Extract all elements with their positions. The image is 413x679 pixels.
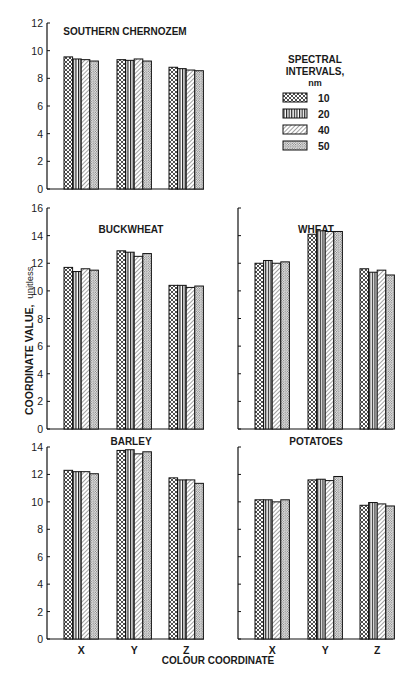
bar-z-10nm xyxy=(169,478,178,639)
bar-x-50nm xyxy=(90,474,99,639)
bar-y-10nm xyxy=(117,251,126,429)
y-tick-label: 8 xyxy=(37,523,43,535)
bar-x-20nm xyxy=(73,59,82,189)
bar-x-10nm xyxy=(255,500,264,639)
x-axis-label: COLOUR COORDINATE xyxy=(162,655,275,666)
y-tick-label: 6 xyxy=(37,340,43,352)
bar-z-50nm xyxy=(195,483,204,639)
bar-x-50nm xyxy=(281,262,290,429)
figure: 024681012SOUTHERN CHERNOZEM0246810121416… xyxy=(0,0,413,679)
y-tick-label: 10 xyxy=(31,496,43,508)
bar-x-10nm xyxy=(64,267,73,429)
bar-z-50nm xyxy=(386,506,395,639)
bar-x-40nm xyxy=(272,502,281,639)
legend-entry-40: 40 xyxy=(283,124,330,136)
bar-y-20nm xyxy=(126,450,135,639)
panel-title: POTATOES xyxy=(289,436,343,447)
bar-z-10nm xyxy=(169,67,178,189)
bar-y-40nm xyxy=(134,256,143,429)
category-label: X xyxy=(78,644,85,656)
panel-title: SOUTHERN CHERNOZEM xyxy=(63,26,186,37)
panel-wheat: WHEAT xyxy=(238,208,394,429)
y-tick-label: 14 xyxy=(31,441,43,453)
y-tick-label: 0 xyxy=(37,183,43,195)
legend-label: 40 xyxy=(318,124,330,136)
diagonal-lines-swatch-icon xyxy=(283,125,307,134)
bar-z-10nm xyxy=(169,285,178,429)
panel-barley: 02468101214BARLEYXYZ xyxy=(31,436,204,656)
bar-z-40nm xyxy=(377,504,386,639)
category-label: Z xyxy=(374,644,381,656)
bar-y-10nm xyxy=(117,450,126,639)
y-tick-label: 8 xyxy=(37,72,43,84)
bar-x-40nm xyxy=(81,269,90,429)
y-axis-unit: unitless xyxy=(24,266,35,298)
bar-x-20nm xyxy=(73,272,82,429)
y-tick-label: 6 xyxy=(37,100,43,112)
bar-z-10nm xyxy=(360,269,369,429)
bar-y-50nm xyxy=(143,254,152,429)
panel-title: BARLEY xyxy=(110,436,151,447)
vertical-lines-swatch-icon xyxy=(283,109,307,118)
crosshatch-swatch-icon xyxy=(283,93,307,102)
bar-y-40nm xyxy=(325,481,334,639)
bar-z-20nm xyxy=(369,503,378,639)
bar-z-40nm xyxy=(186,287,195,429)
bar-x-20nm xyxy=(264,260,273,429)
panel-title: BUCKWHEAT xyxy=(99,224,164,235)
bar-x-20nm xyxy=(73,472,82,639)
y-tick-label: 0 xyxy=(37,633,43,645)
y-tick-label: 4 xyxy=(37,128,43,140)
bar-y-10nm xyxy=(308,234,317,429)
panel-southern-chernozem: 024681012SOUTHERN CHERNOZEM xyxy=(31,17,204,195)
bar-x-50nm xyxy=(90,61,99,189)
bar-z-40nm xyxy=(377,270,386,429)
y-tick-label: 8 xyxy=(37,313,43,325)
legend-label: 10 xyxy=(318,92,330,104)
bar-y-40nm xyxy=(134,59,143,189)
y-tick-label: 12 xyxy=(31,17,43,29)
legend-label: 20 xyxy=(318,108,330,120)
y-tick-label: 10 xyxy=(31,45,43,57)
bar-x-40nm xyxy=(81,472,90,639)
legend-entry-50: 50 xyxy=(283,140,330,152)
panel-buckwheat: 0246810121416BUCKWHEAT xyxy=(31,202,204,435)
bar-x-40nm xyxy=(272,263,281,429)
y-tick-label: 2 xyxy=(37,155,43,167)
bar-z-40nm xyxy=(186,70,195,189)
bar-y-40nm xyxy=(325,231,334,429)
y-tick-label: 2 xyxy=(37,395,43,407)
bar-x-50nm xyxy=(281,500,290,639)
category-label: Y xyxy=(131,644,138,656)
legend: SPECTRAL INTERVALS, nm 10204050 xyxy=(283,54,344,152)
bar-x-50nm xyxy=(90,270,99,429)
bar-y-10nm xyxy=(308,480,317,639)
y-tick-label: 16 xyxy=(31,202,43,214)
bar-y-20nm xyxy=(126,60,135,189)
legend-title-line-1: SPECTRAL xyxy=(288,54,342,65)
bar-z-20nm xyxy=(369,272,378,429)
panel-potatoes: POTATOESXYZ xyxy=(238,436,394,656)
bar-x-10nm xyxy=(255,263,264,429)
bar-y-40nm xyxy=(134,454,143,639)
legend-title-line-2: INTERVALS, xyxy=(286,66,345,77)
bar-x-40nm xyxy=(81,60,90,189)
legend-entry-20: 20 xyxy=(283,108,330,120)
y-tick-label: 0 xyxy=(37,423,43,435)
bar-z-50nm xyxy=(195,286,204,429)
bar-z-20nm xyxy=(178,480,187,639)
bar-y-20nm xyxy=(317,479,326,639)
y-tick-label: 4 xyxy=(37,578,43,590)
legend-title-line-3: nm xyxy=(308,78,322,88)
y-tick-label: 14 xyxy=(31,230,43,242)
bar-x-10nm xyxy=(64,470,73,639)
bar-y-20nm xyxy=(126,252,135,429)
bar-y-10nm xyxy=(117,60,126,189)
y-tick-label: 12 xyxy=(31,468,43,480)
y-tick-label: 2 xyxy=(37,606,43,618)
bar-z-50nm xyxy=(195,71,204,189)
bar-x-20nm xyxy=(264,500,273,639)
bar-y-50nm xyxy=(334,476,343,639)
legend-entry-10: 10 xyxy=(283,92,330,104)
bar-x-10nm xyxy=(64,57,73,189)
